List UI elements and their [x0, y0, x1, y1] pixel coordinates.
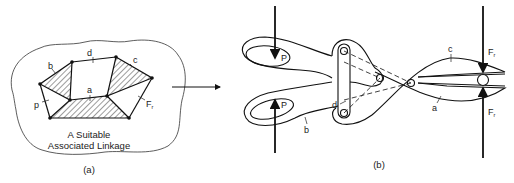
label-d: d — [332, 100, 337, 110]
link-a-body — [50, 96, 129, 118]
gripped-object — [478, 75, 489, 86]
upper-handle — [242, 37, 332, 78]
label-fr-bottom: Fr — [488, 107, 496, 118]
panel-b — [242, 37, 505, 126]
link-d-plate — [338, 44, 350, 118]
label-c: c — [133, 55, 138, 65]
panel-a: d b c a p Fr A Suitable Associated Linka… — [11, 40, 185, 175]
label-b: b — [304, 125, 309, 135]
panel-a-label: (a) — [83, 164, 95, 175]
label-fr: Fr — [146, 99, 154, 110]
label-fr-top: Fr — [488, 47, 496, 58]
label-d: d — [87, 48, 92, 58]
label-c: c — [448, 44, 453, 54]
blade-c — [372, 58, 505, 115]
lower-finger-loop — [248, 95, 295, 123]
caption-line2: Associated Linkage — [48, 140, 130, 151]
panel-b-label: (b) — [373, 159, 385, 170]
label-a: a — [432, 103, 437, 113]
link-b-body — [40, 62, 72, 100]
link-d — [72, 57, 116, 62]
label-p: p — [34, 100, 39, 110]
caption-line1: A Suitable — [68, 129, 111, 140]
label-b: b — [48, 61, 53, 71]
label-p-top: P — [281, 53, 287, 63]
label-a: a — [87, 85, 92, 95]
label-p-bottom: P — [281, 100, 287, 110]
